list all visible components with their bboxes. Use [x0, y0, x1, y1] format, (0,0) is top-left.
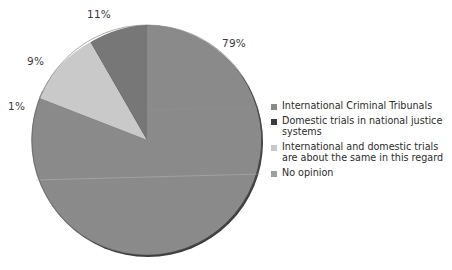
legend-item-domestic-trials[interactable]: Domestic trials in national justice syst…: [271, 115, 449, 138]
pie-label-11-percent: 11%: [87, 8, 111, 20]
legend-swatch-icon: [271, 119, 277, 125]
legend-item-no-opinion[interactable]: No opinion: [271, 167, 449, 179]
legend-item-label: No opinion: [282, 167, 333, 179]
legend-swatch-icon: [271, 104, 277, 110]
chart-legend: International Criminal Tribunals Domesti…: [271, 100, 449, 181]
legend-item-label: International Criminal Tribunals: [282, 100, 432, 112]
pie-plot-area: 11% 79% 9% 1%: [0, 0, 278, 270]
legend-swatch-icon: [271, 171, 277, 177]
legend-item-label: Domestic trials in national justice syst…: [282, 115, 444, 138]
legend-item-label: International and domestic trials are ab…: [282, 141, 444, 164]
pie-label-1-percent: 1%: [8, 100, 25, 112]
pie-chart-figure: 11% 79% 9% 1% International Criminal Tri…: [0, 0, 452, 270]
legend-item-international-criminal-tribunals[interactable]: International Criminal Tribunals: [271, 100, 449, 112]
legend-item-about-the-same[interactable]: International and domestic trials are ab…: [271, 141, 449, 164]
pie-label-9-percent: 9%: [27, 55, 44, 67]
pie-label-79-percent: 79%: [222, 37, 246, 49]
legend-swatch-icon: [271, 145, 277, 151]
